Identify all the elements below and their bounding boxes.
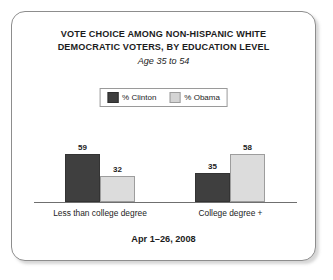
- legend-item-obama: % Obama: [169, 92, 220, 103]
- chart-title-line-2: DEMOCRATIC VOTERS, BY EDUCATION LEVEL: [12, 41, 315, 54]
- bar-value-label: 35: [208, 162, 217, 171]
- bar-group-less-than-college: 59 32: [56, 120, 144, 202]
- chart-footer-date: Apr 1–26, 2008: [12, 234, 315, 244]
- chart-title-line-1: VOTE CHOICE AMONG NON-HISPANIC WHITE: [12, 28, 315, 41]
- bar-wrap-clinton-0: 59: [65, 120, 100, 202]
- bar-clinton-college-degree: [195, 173, 230, 202]
- chart-title-block: VOTE CHOICE AMONG NON-HISPANIC WHITE DEM…: [12, 28, 315, 69]
- bar-value-label: 32: [113, 165, 122, 174]
- bar-obama-less-than-college: [100, 176, 135, 202]
- chart-card: VOTE CHOICE AMONG NON-HISPANIC WHITE DEM…: [11, 11, 316, 261]
- category-label-less-than-college: Less than college degree: [34, 208, 166, 218]
- bar-wrap-obama-0: 32: [100, 120, 135, 202]
- bar-group-college-degree: 35 58: [186, 120, 274, 202]
- category-label-college-degree: College degree +: [166, 208, 295, 218]
- bar-obama-college-degree: [230, 154, 265, 202]
- legend-label-clinton: % Clinton: [122, 93, 156, 102]
- bar-clinton-less-than-college: [65, 154, 100, 202]
- bar-wrap-clinton-1: 35: [195, 120, 230, 202]
- legend-swatch-icon-clinton: [107, 92, 118, 103]
- plot-area: 59 32 35 58: [34, 120, 295, 202]
- chart-legend: % Clinton % Obama: [99, 88, 228, 107]
- legend-label-obama: % Obama: [184, 93, 220, 102]
- bar-value-label: 59: [78, 143, 87, 152]
- legend-item-clinton: % Clinton: [107, 92, 156, 103]
- x-axis-category-labels: Less than college degree College degree …: [34, 208, 295, 222]
- bar-wrap-obama-1: 58: [230, 120, 265, 202]
- legend-swatch-icon-obama: [169, 92, 180, 103]
- bar-value-label: 58: [243, 143, 252, 152]
- x-axis-line: [34, 202, 297, 203]
- chart-subtitle: Age 35 to 54: [12, 54, 315, 69]
